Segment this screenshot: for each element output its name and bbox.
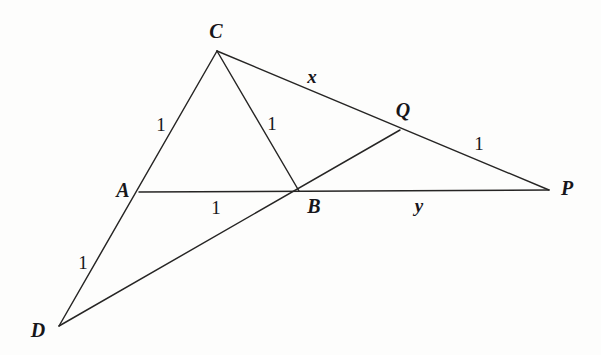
segment-A-P [139,190,549,192]
vertex-label-Q: Q [396,100,410,120]
segment-D-C [59,51,217,326]
segment-length-label-CB: 1 [267,114,277,133]
segment-length-label-AC: 1 [156,115,166,134]
vertex-label-A: A [116,180,129,200]
segment-C-B [217,51,299,191]
segment-length-label-QP: 1 [474,134,484,153]
segment-length-label-DA: 1 [78,253,88,272]
geometry-canvas [0,0,601,355]
geometry-figure: C A B P Q D 1 1 1 1 1 x y [0,0,601,355]
segment-variable-label-BP: y [415,196,423,215]
segment-variable-label-CQ: x [307,67,317,86]
vertex-label-B: B [307,196,320,216]
segment-length-label-AB: 1 [211,198,221,217]
vertex-label-D: D [31,320,45,340]
vertex-label-C: C [209,21,222,41]
vertex-label-P: P [561,178,573,198]
segment-D-Q [59,130,400,326]
